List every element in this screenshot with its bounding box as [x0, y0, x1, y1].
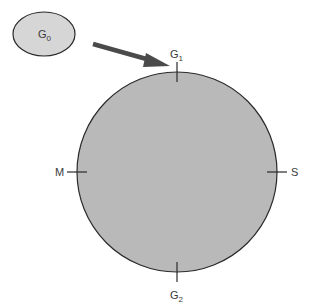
cell-cycle-diagram: G0 G1 G2 M S: [0, 0, 309, 307]
g0-node: G0: [13, 12, 75, 56]
cell-cycle-circle: [77, 72, 277, 272]
g2-label: G2: [170, 289, 184, 304]
g1-label: G1: [170, 48, 184, 63]
s-label: S: [291, 166, 298, 178]
m-label: M: [55, 166, 64, 178]
arrow-head-icon: [143, 53, 170, 67]
arrow-shaft: [93, 44, 150, 60]
g0-to-g1-arrow: [93, 44, 170, 67]
